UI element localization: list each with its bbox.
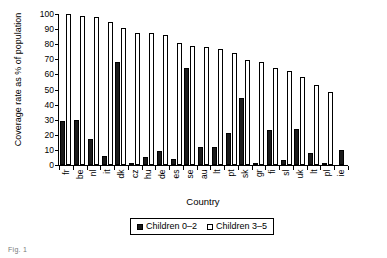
bar — [121, 28, 126, 165]
x-axis-tick-label: dk — [116, 170, 125, 196]
bar — [245, 60, 250, 165]
bar — [253, 163, 258, 165]
bar — [281, 160, 286, 165]
x-axis-label-cell: dk — [114, 170, 128, 196]
x-axis-label-cell: sl — [279, 170, 293, 196]
y-axis-tick-label: 50 — [32, 86, 54, 95]
legend-label: Children 0–2 — [146, 221, 197, 232]
bar-group — [210, 14, 224, 165]
x-axis-tick-label: lt — [309, 170, 318, 196]
x-axis-tick-label: be — [75, 170, 84, 196]
figure-bar-chart-childcare-coverage: Coverage rate as % of population 1009080… — [0, 0, 387, 258]
bar-group — [265, 14, 279, 165]
x-axis-tick-label: es — [171, 170, 180, 196]
bar — [294, 129, 299, 165]
x-axis-label-cell: fi — [265, 170, 279, 196]
bar-group — [252, 14, 266, 165]
x-axis-label-cell: cz — [128, 170, 142, 196]
chart-legend: Children 0–2Children 3–5 — [130, 218, 274, 235]
x-axis-tick-label: pl — [323, 170, 332, 196]
bar — [66, 14, 71, 165]
y-axis-tick-label: 10 — [32, 146, 54, 155]
legend-swatch-dark — [137, 224, 143, 230]
bar — [80, 16, 85, 165]
bar — [108, 22, 113, 165]
bar-group — [114, 14, 128, 165]
bar — [60, 121, 65, 165]
x-axis-tick-label: fr — [61, 170, 70, 196]
bar — [88, 139, 93, 165]
bar — [190, 46, 195, 165]
x-axis-tick-label: uk — [295, 170, 304, 196]
bar — [232, 53, 237, 165]
x-axis-label-cell: fr — [59, 170, 73, 196]
y-axis-title-container: Coverage rate as % of population — [2, 8, 32, 168]
x-axis-tick-label: nl — [89, 170, 98, 196]
bar — [129, 163, 134, 165]
x-axis-tick-label: pt — [227, 170, 236, 196]
x-axis-label-cell: se — [183, 170, 197, 196]
x-axis-label-cell: pl — [320, 170, 334, 196]
x-axis-tick-labels: frbenlitdkczhudeesseaultptskgrfislukltpl… — [58, 170, 348, 196]
legend-swatch-light — [207, 224, 213, 230]
x-axis-label-cell: nl — [86, 170, 100, 196]
x-axis-tick-label: sl — [282, 170, 291, 196]
x-axis-tick-label: ie — [337, 170, 346, 196]
bar — [102, 156, 107, 165]
x-axis-tick-label: fi — [268, 170, 277, 196]
bar — [328, 92, 333, 165]
x-axis-tick-label: lt — [213, 170, 222, 196]
y-axis-tick-label: 20 — [32, 131, 54, 140]
bar-group — [128, 14, 142, 165]
bar-group — [169, 14, 183, 165]
bar — [308, 153, 313, 165]
x-axis-label-cell: lt — [210, 170, 224, 196]
bar-group — [334, 14, 348, 165]
y-axis-tick-label: 80 — [32, 40, 54, 49]
bar — [218, 49, 223, 165]
bar — [143, 157, 148, 165]
bar — [287, 71, 292, 165]
x-axis-label-cell: it — [100, 170, 114, 196]
x-axis-tick-label: cz — [130, 170, 139, 196]
bar — [322, 163, 327, 165]
bar-group — [100, 14, 114, 165]
bar — [314, 85, 319, 165]
y-axis-tick-label: 60 — [32, 70, 54, 79]
bar — [226, 133, 231, 165]
bar-group — [224, 14, 238, 165]
bar — [74, 120, 79, 165]
bar-group — [279, 14, 293, 165]
x-axis-label-cell: ie — [334, 170, 348, 196]
bar — [177, 43, 182, 165]
legend-item: Children 3–5 — [207, 221, 267, 232]
y-axis-tick-label: 30 — [32, 116, 54, 125]
plot-area: 1009080706050403020100 — [58, 14, 348, 166]
x-axis-label-cell: pt — [224, 170, 238, 196]
bar — [204, 47, 209, 165]
y-axis-tick-label: 70 — [32, 55, 54, 64]
x-axis-label-cell: uk — [293, 170, 307, 196]
bar — [157, 151, 162, 165]
legend-item: Children 0–2 — [137, 221, 197, 232]
x-axis-tick-label: au — [199, 170, 208, 196]
y-axis-tick-label: 90 — [32, 25, 54, 34]
y-axis-tick-label: 40 — [32, 101, 54, 110]
bar-group — [87, 14, 101, 165]
bar — [339, 150, 344, 165]
x-axis-tick-label: gr — [254, 170, 263, 196]
x-axis-tick-label: de — [158, 170, 167, 196]
bar — [198, 147, 203, 165]
x-axis-tick-label: it — [103, 170, 112, 196]
bar-group — [73, 14, 87, 165]
y-axis-tick-label: 0 — [32, 161, 54, 170]
bar-group — [155, 14, 169, 165]
bar-group — [142, 14, 156, 165]
x-axis-title: Country — [58, 196, 348, 207]
bar-group — [293, 14, 307, 165]
bar — [135, 33, 140, 165]
bar-group — [183, 14, 197, 165]
bar-group — [238, 14, 252, 165]
x-axis-tick-mark — [348, 166, 349, 170]
bar — [273, 68, 278, 165]
